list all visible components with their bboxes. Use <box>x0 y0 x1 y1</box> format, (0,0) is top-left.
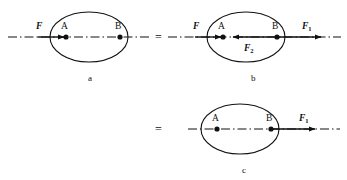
panel-b-graphics <box>168 12 341 62</box>
force-label-F1-panel-b: F1 <box>302 22 312 32</box>
point-B-panel-b <box>274 34 279 39</box>
force-label-F-panel-b: F <box>193 22 199 32</box>
point-label-A-panel-a: A <box>61 22 68 32</box>
panel-a-graphics <box>8 12 150 62</box>
force-label-F1-subscript-c: 1 <box>305 117 308 124</box>
point-label-B-panel-c: B <box>266 114 272 124</box>
point-A-panel-a <box>63 34 68 39</box>
force-label-F-panel-a: F <box>36 22 42 32</box>
panel-caption-b: b <box>251 74 256 83</box>
panel-c-graphics <box>188 104 340 154</box>
force-diagram-figure: F A B a = F A B F2 F1 b = A B F1 c <box>0 0 347 180</box>
force-label-F2-subscript: 2 <box>250 47 253 54</box>
point-label-A-panel-c: A <box>212 114 219 124</box>
point-A-panel-b <box>220 34 225 39</box>
point-label-A-panel-b: A <box>218 22 225 32</box>
equals-sign-1: = <box>155 31 162 43</box>
panel-caption-a: a <box>88 74 92 83</box>
point-A-panel-c <box>214 126 219 131</box>
force-label-F2-panel-b: F2 <box>244 44 254 54</box>
point-B-panel-a <box>117 34 122 39</box>
force-label-F1-subscript-b: 1 <box>308 25 311 32</box>
equals-sign-2: = <box>155 123 162 135</box>
figure-canvas <box>0 0 347 180</box>
point-label-B-panel-a: B <box>115 22 121 32</box>
point-label-B-panel-b: B <box>272 22 278 32</box>
force-label-F1-panel-c: F1 <box>299 114 309 124</box>
point-B-panel-c <box>268 126 273 131</box>
panel-caption-c: c <box>242 166 246 175</box>
